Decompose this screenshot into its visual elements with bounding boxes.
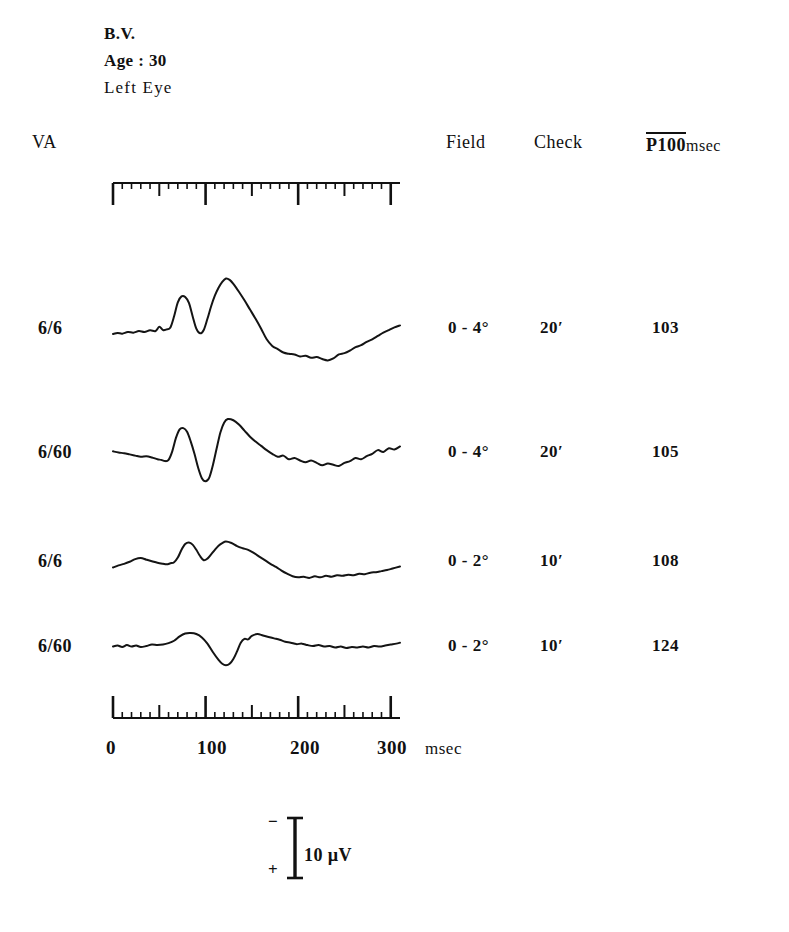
waveform-traces bbox=[113, 278, 400, 665]
axis-tick-label-0: 0 bbox=[106, 737, 116, 759]
axis-unit-label: msec bbox=[425, 739, 462, 759]
calibration-label: 10 µV bbox=[304, 845, 352, 866]
vep-plot bbox=[0, 0, 789, 932]
calibration-negative-sign: − bbox=[268, 812, 278, 832]
axis-tick-label-100: 100 bbox=[197, 737, 227, 759]
time-ruler-bottom bbox=[113, 696, 400, 718]
time-ruler-top bbox=[113, 183, 400, 205]
calibration-bar bbox=[287, 818, 303, 878]
calibration-positive-sign: + bbox=[268, 860, 278, 880]
axis-tick-label-200: 200 bbox=[290, 737, 320, 759]
axis-tick-label-300: 300 bbox=[377, 737, 407, 759]
